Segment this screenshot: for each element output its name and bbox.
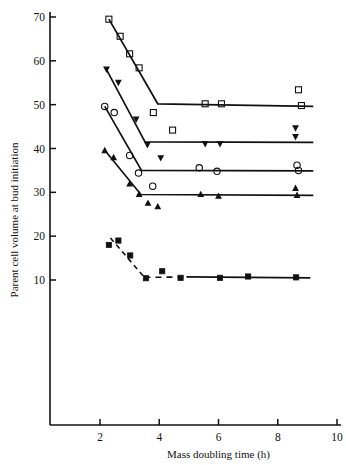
data-point-filled-square [246,274,251,279]
y-tick-label: 50 [34,99,46,111]
data-point-filled-square [178,275,183,280]
y-tick-label: 10 [34,274,46,286]
scatter-plot: 10203040506070246810Mass doubling time (… [0,0,346,465]
figure-container: 10203040506070246810Mass doubling time (… [0,0,346,465]
x-tick-label: 4 [156,431,162,443]
x-tick-label: 10 [331,431,343,443]
data-point-filled-square [116,238,121,243]
data-point-filled-square [294,275,299,280]
plot-background [0,0,346,465]
x-tick-label: 6 [216,431,222,443]
x-tick-label: 8 [275,431,281,443]
data-point-filled-square [160,269,165,274]
y-tick-label: 30 [34,186,46,198]
x-axis-title: Mass doubling time (h) [167,448,270,461]
y-tick-label: 60 [34,55,46,67]
data-point-filled-square [143,276,148,281]
y-tick-label: 70 [34,11,46,23]
data-point-filled-square [106,242,111,247]
data-point-filled-square [217,275,222,280]
y-axis-title: Parent cell volume at bud initiation [8,142,20,297]
x-tick-label: 2 [97,431,103,443]
data-point-filled-square [128,253,133,258]
y-tick-label: 40 [34,143,46,155]
y-tick-label: 20 [34,230,46,242]
